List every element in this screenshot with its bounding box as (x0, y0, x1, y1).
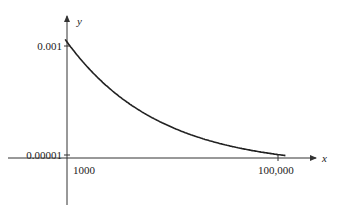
chart: x y 0.0010.00001 1000100,000 (0, 0, 339, 214)
x-tick-label: 1000 (73, 164, 96, 176)
x-axis-label: x (321, 152, 327, 164)
y-tick-label: 0.00001 (26, 149, 62, 161)
y-axis-label: y (76, 15, 82, 27)
x-tick-label: 100,000 (258, 164, 294, 176)
series-line (65, 39, 285, 155)
y-tick-label: 0.001 (37, 40, 62, 52)
